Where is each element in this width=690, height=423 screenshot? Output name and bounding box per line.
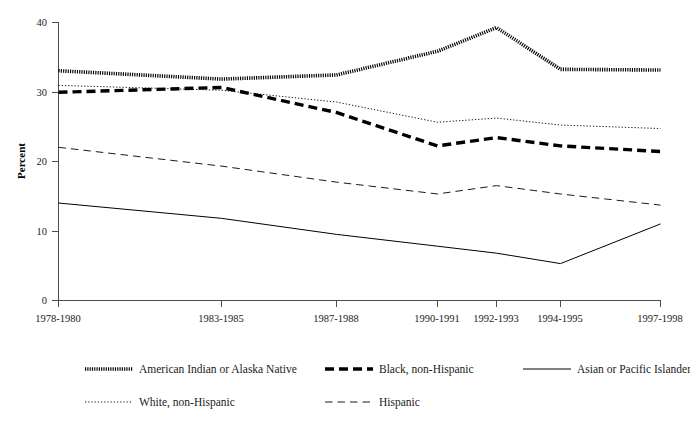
legend-label-0: American Indian or Alaska Native xyxy=(139,363,297,375)
legend-item-asian-or-pacific-islander: Asian or Pacific Islander xyxy=(523,363,690,375)
y-tick-label-30: 30 xyxy=(37,87,48,98)
x-tick-label-1987-1988: 1987-1988 xyxy=(313,313,359,324)
x-tick-label-1992-1993: 1992-1993 xyxy=(473,313,519,324)
chart-canvas: 40 30 20 10 0 Percent 1978-1980 1983-198… xyxy=(0,0,690,423)
y-axis-title: Percent xyxy=(15,143,27,179)
x-tick-label-1978-1980: 1978-1980 xyxy=(35,313,81,324)
legend-label-2: Asian or Pacific Islander xyxy=(577,363,690,375)
x-tick-label-1983-1985: 1983-1985 xyxy=(198,313,244,324)
legend-item-black-non-hispanic: Black, non-Hispanic xyxy=(325,363,474,376)
y-tick-label-20: 20 xyxy=(37,156,48,167)
legend-item-white-non-hispanic: White, non-Hispanic xyxy=(85,396,235,409)
line-chart: 40 30 20 10 0 Percent 1978-1980 1983-198… xyxy=(0,0,690,423)
series-line-american-indian-or-alaska-native xyxy=(59,28,661,80)
y-tick-label-0: 0 xyxy=(42,295,47,306)
series-line-asian-or-pacific-islander xyxy=(59,203,661,264)
legend-item-american-indian-or-alaska-native: American Indian or Alaska Native xyxy=(85,363,297,375)
x-tick-label-1994-1995: 1994-1995 xyxy=(537,313,583,324)
series-line-black-non-hispanic xyxy=(59,87,661,151)
series-line-white-non-hispanic xyxy=(59,85,661,128)
legend-label-1: Black, non-Hispanic xyxy=(379,363,474,376)
legend-item-hispanic: Hispanic xyxy=(325,396,420,409)
chart-legend: American Indian or Alaska Native Black, … xyxy=(85,363,690,409)
y-tick-label-40: 40 xyxy=(37,17,48,28)
x-tick-label-1990-1991: 1990-1991 xyxy=(414,313,460,324)
x-tick-label-1997-1998: 1997-1998 xyxy=(637,313,683,324)
legend-label-3: White, non-Hispanic xyxy=(139,396,235,409)
y-tick-label-10: 10 xyxy=(37,226,48,237)
legend-label-4: Hispanic xyxy=(379,396,420,409)
series-group xyxy=(59,28,661,264)
series-line-hispanic xyxy=(59,147,661,205)
